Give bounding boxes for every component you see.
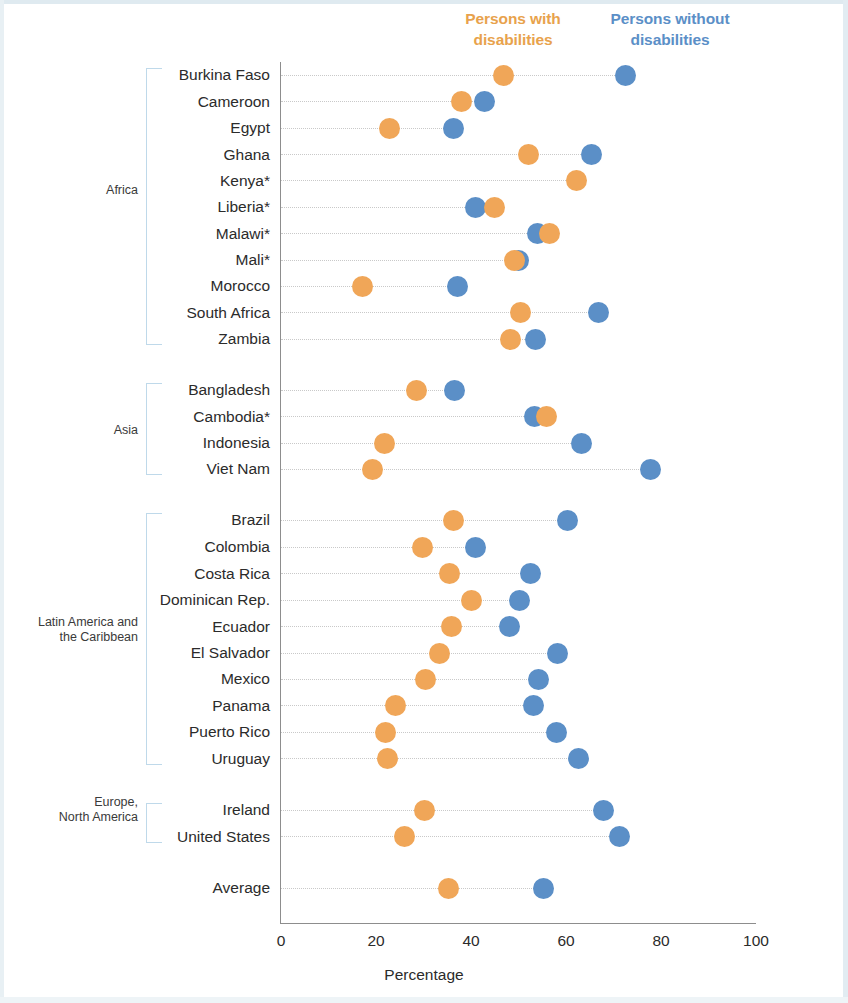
data-point-without-disabilities xyxy=(525,329,546,350)
row-label: Indonesia xyxy=(203,435,270,451)
gridline xyxy=(281,758,579,759)
row-label: Burkina Faso xyxy=(179,67,270,83)
row-label: Cameroon xyxy=(198,94,270,110)
data-point-without-disabilities xyxy=(444,380,465,401)
gridline xyxy=(281,207,495,208)
gridline xyxy=(281,469,651,470)
row-label: Cambodia* xyxy=(193,409,270,425)
y-axis-line xyxy=(280,62,281,924)
data-point-with-disabilities xyxy=(518,144,539,165)
row-label: Costa Rica xyxy=(194,566,270,582)
data-point-with-disabilities xyxy=(504,250,525,271)
data-point-with-disabilities xyxy=(415,669,436,690)
data-point-with-disabilities xyxy=(441,616,462,637)
data-point-without-disabilities xyxy=(568,748,589,769)
group-label: Africa xyxy=(106,183,138,198)
data-point-with-disabilities xyxy=(379,118,400,139)
data-point-with-disabilities xyxy=(536,406,557,427)
gridline xyxy=(281,75,625,76)
data-point-with-disabilities xyxy=(375,722,396,743)
row-label: Ecuador xyxy=(212,619,270,635)
data-point-without-disabilities xyxy=(523,695,544,716)
data-point-with-disabilities xyxy=(414,800,435,821)
gridline xyxy=(281,390,455,391)
gridline xyxy=(281,679,539,680)
gridline xyxy=(281,888,544,889)
row-label: Bangladesh xyxy=(188,382,270,398)
gridline xyxy=(281,339,535,340)
data-point-without-disabilities xyxy=(546,722,567,743)
gridline xyxy=(281,547,476,548)
data-point-with-disabilities xyxy=(500,329,521,350)
x-axis-tick-label: 60 xyxy=(536,932,596,950)
gridline xyxy=(281,600,520,601)
data-point-with-disabilities xyxy=(566,170,587,191)
data-point-with-disabilities xyxy=(539,223,560,244)
data-point-with-disabilities xyxy=(429,643,450,664)
gridline xyxy=(281,626,509,627)
data-point-with-disabilities xyxy=(510,302,531,323)
data-point-with-disabilities xyxy=(385,695,406,716)
data-point-with-disabilities xyxy=(493,65,514,86)
group-label: Europe,North America xyxy=(59,795,138,825)
data-point-with-disabilities xyxy=(362,459,383,480)
row-label: Panama xyxy=(212,698,270,714)
gridline xyxy=(281,732,556,733)
x-axis-tick-label: 100 xyxy=(726,932,786,950)
data-point-without-disabilities xyxy=(609,826,630,847)
gridline xyxy=(281,836,619,837)
row-label: Morocco xyxy=(211,278,270,294)
group-label-line1: Asia xyxy=(114,423,138,438)
data-point-with-disabilities xyxy=(377,748,398,769)
plot-area: Burkina FasoCameroonEgyptGhanaKenya*Libe… xyxy=(0,0,848,1003)
data-point-without-disabilities xyxy=(547,643,568,664)
data-point-with-disabilities xyxy=(394,826,415,847)
group-label-line1: Europe, xyxy=(59,795,138,810)
gridline xyxy=(281,573,531,574)
row-label: Ghana xyxy=(223,147,270,163)
data-point-with-disabilities xyxy=(451,91,472,112)
data-point-with-disabilities xyxy=(461,590,482,611)
group-label-line2: the Caribbean xyxy=(38,630,138,645)
row-label: Ireland xyxy=(223,802,270,818)
group-label: Latin America andthe Caribbean xyxy=(38,615,138,645)
row-label: El Salvador xyxy=(191,645,270,661)
row-label: Colombia xyxy=(205,539,270,555)
data-point-with-disabilities xyxy=(406,380,427,401)
data-point-with-disabilities xyxy=(412,537,433,558)
data-point-with-disabilities xyxy=(443,510,464,531)
gridline xyxy=(281,810,604,811)
data-point-without-disabilities xyxy=(640,459,661,480)
gridline xyxy=(281,312,599,313)
row-label: Mexico xyxy=(221,671,270,687)
data-point-without-disabilities xyxy=(557,510,578,531)
x-axis-tick-label: 40 xyxy=(441,932,501,950)
row-label: Malawi* xyxy=(216,226,270,242)
gridline xyxy=(281,443,581,444)
gridline xyxy=(281,233,549,234)
row-label: United States xyxy=(177,829,270,845)
group-label: Asia xyxy=(114,423,138,438)
row-label: Uruguay xyxy=(211,751,270,767)
group-label-line1: Latin America and xyxy=(38,615,138,630)
data-point-without-disabilities xyxy=(520,563,541,584)
row-label: Zambia xyxy=(218,331,270,347)
data-point-with-disabilities xyxy=(352,276,373,297)
data-point-without-disabilities xyxy=(571,433,592,454)
data-point-without-disabilities xyxy=(447,276,468,297)
data-point-without-disabilities xyxy=(533,878,554,899)
data-point-without-disabilities xyxy=(581,144,602,165)
gridline xyxy=(281,154,591,155)
data-point-without-disabilities xyxy=(509,590,530,611)
dot-plot-figure: Persons with disabilities Persons withou… xyxy=(0,0,848,1003)
row-label: Average xyxy=(213,880,270,896)
row-label: South Africa xyxy=(186,305,270,321)
data-point-without-disabilities xyxy=(443,118,464,139)
row-label: Viet Nam xyxy=(207,461,270,477)
gridline xyxy=(281,705,533,706)
row-label: Mali* xyxy=(236,252,270,268)
group-label-line2: North America xyxy=(59,810,138,825)
data-point-with-disabilities xyxy=(484,197,505,218)
data-point-without-disabilities xyxy=(465,537,486,558)
gridline xyxy=(281,260,519,261)
